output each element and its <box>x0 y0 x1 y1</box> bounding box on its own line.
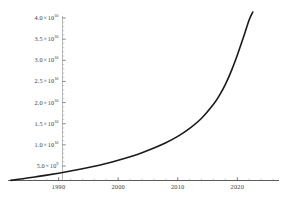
y-axis-tick-label: 1.5×1010 <box>35 121 59 127</box>
x-axis-tick-label: 2020 <box>231 184 245 190</box>
y-axis-major-ticks <box>63 18 66 166</box>
y-axis-tick-label: 4.0×1010 <box>35 15 59 21</box>
y-axis-tick-label: 2.0×1010 <box>35 99 59 105</box>
x-axis-tick-label: 2000 <box>111 184 125 190</box>
y-axis-tick-label: 3.5×1010 <box>35 36 59 42</box>
y-axis-tick-label: 1.0×1010 <box>35 142 59 148</box>
x-axis-tick-label: 2010 <box>171 184 185 190</box>
x-axis-major-ticks <box>59 177 238 180</box>
y-axis-tick-label: 2.5×1010 <box>35 78 59 84</box>
y-axis-tick-label: 5.0×109 <box>37 163 59 169</box>
chart-container: 5.0×1091.0×10101.5×10102.0×10102.5×10103… <box>0 0 288 201</box>
y-axis-tick-label: 3.0×1010 <box>35 57 59 63</box>
x-axis-tick-label: 1990 <box>52 184 66 190</box>
